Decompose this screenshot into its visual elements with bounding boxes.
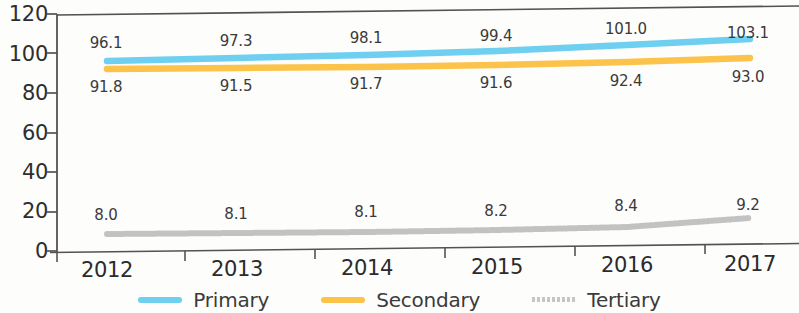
data-label: 91.8 xyxy=(71,78,141,96)
data-label: 103.1 xyxy=(713,24,783,42)
data-label: 93.0 xyxy=(713,68,783,86)
x-tick-label: 2017 xyxy=(710,252,790,276)
line-swatch-tertiary-icon xyxy=(532,297,576,302)
legend-label: Primary xyxy=(193,288,269,312)
line-swatch-primary-icon xyxy=(138,297,182,303)
legend-label: Tertiary xyxy=(587,288,660,312)
legend-item-secondary[interactable]: Secondary xyxy=(321,288,480,312)
plot-top-border xyxy=(57,6,799,15)
legend-item-primary[interactable]: Primary xyxy=(138,288,269,312)
data-label: 8.1 xyxy=(206,205,266,223)
data-label: 99.4 xyxy=(461,27,531,45)
data-label: 97.3 xyxy=(201,32,271,50)
data-label: 9.2 xyxy=(718,196,778,214)
data-label: 96.1 xyxy=(71,34,141,52)
x-tick-label: 2012 xyxy=(67,258,147,282)
x-tick-label: 2013 xyxy=(197,257,277,281)
data-label: 91.7 xyxy=(331,75,401,93)
y-axis-ticks xyxy=(47,14,57,251)
series-line-tertiary xyxy=(107,218,750,234)
data-label: 8.0 xyxy=(76,206,136,224)
data-label: 91.6 xyxy=(461,74,531,92)
legend-label: Secondary xyxy=(376,288,480,312)
chart-figure: 120 100 80 60 40 20 0 xyxy=(0,0,799,313)
data-label: 98.1 xyxy=(331,29,401,47)
legend-item-tertiary[interactable]: Tertiary xyxy=(532,288,660,312)
data-label: 101.0 xyxy=(591,20,661,38)
x-tick-label: 2015 xyxy=(457,255,537,279)
line-swatch-secondary-icon xyxy=(321,297,365,303)
data-label: 8.2 xyxy=(466,202,526,220)
x-tick-label: 2014 xyxy=(327,256,407,280)
data-label: 91.5 xyxy=(201,77,271,95)
chart-legend: Primary Secondary Tertiary xyxy=(0,286,799,313)
x-tick-label: 2016 xyxy=(587,253,667,277)
data-label: 8.4 xyxy=(596,197,656,215)
data-label: 92.4 xyxy=(591,72,661,90)
x-axis-line xyxy=(50,244,799,253)
data-label: 8.1 xyxy=(336,203,396,221)
